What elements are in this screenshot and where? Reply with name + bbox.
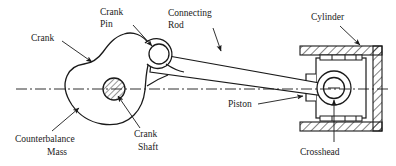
- leader-connecting-rod: [213, 28, 221, 51]
- label-crank-shaft-line2: Shaft: [138, 142, 158, 152]
- cylinder-right-wall: [373, 46, 382, 131]
- leader-counterbalance: [52, 108, 79, 131]
- connecting-rod-body: [150, 53, 325, 96]
- slider-crank-diagram: Crank Pin Connecting Rod Cylinder Crank …: [0, 0, 396, 166]
- label-counterbalance-line2: Mass: [47, 147, 67, 157]
- crank-pin: [149, 44, 169, 64]
- crosshead-pin: [317, 71, 351, 105]
- label-crank-shaft-line1: Crank: [134, 129, 157, 139]
- connecting-rod: [150, 53, 325, 96]
- label-connecting-rod-line2: Rod: [168, 20, 184, 30]
- label-counterbalance-line1: Counterbalance: [15, 134, 75, 144]
- label-connecting-rod-line1: Connecting: [168, 8, 212, 18]
- crank-web-outline: [65, 33, 149, 125]
- label-cylinder: Cylinder: [311, 12, 345, 22]
- label-crosshead: Crosshead: [300, 147, 340, 157]
- crank-pin-circle: [149, 44, 169, 64]
- label-crank: Crank: [31, 33, 54, 43]
- label-piston: Piston: [228, 99, 252, 109]
- cylinder-bottom-wall: [300, 122, 382, 131]
- figure-container: Crank Pin Connecting Rod Cylinder Crank …: [0, 0, 396, 166]
- leader-crank: [62, 41, 92, 62]
- crank-web-inner-edge: [147, 75, 168, 86]
- leader-piston: [258, 96, 303, 104]
- label-crank-pin-line2: Pin: [100, 19, 113, 29]
- cylinder-top-wall: [300, 46, 382, 55]
- label-crank-pin-line1: Crank: [100, 7, 123, 17]
- leader-cylinder: [340, 26, 360, 45]
